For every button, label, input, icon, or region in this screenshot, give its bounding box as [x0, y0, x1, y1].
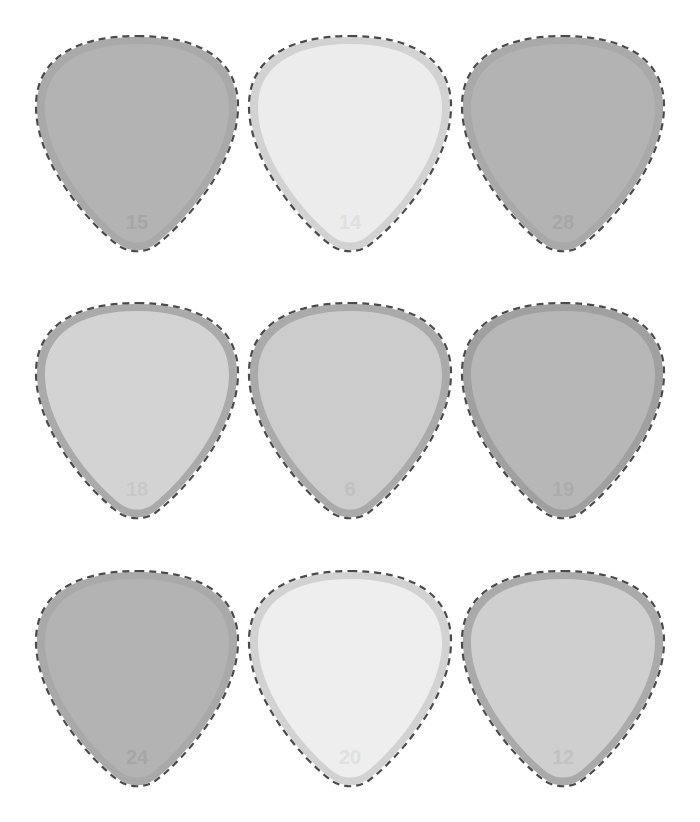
- pick-shape-icon: [34, 33, 240, 253]
- guitar-pick-tile-14[interactable]: 14: [247, 33, 453, 253]
- guitar-pick-tile-24[interactable]: 24: [34, 568, 240, 788]
- pick-shape-icon: [460, 300, 666, 520]
- pick-shape-icon: [460, 33, 666, 253]
- guitar-pick-tile-6[interactable]: 6: [247, 300, 453, 520]
- pick-shape-icon: [247, 300, 453, 520]
- guitar-pick-tile-12[interactable]: 12: [460, 568, 666, 788]
- guitar-pick-tile-18[interactable]: 18: [34, 300, 240, 520]
- pick-shape-icon: [34, 568, 240, 788]
- pick-shape-icon: [247, 33, 453, 253]
- pick-shape-icon: [460, 568, 666, 788]
- pick-shape-icon: [247, 568, 453, 788]
- pick-shape-icon: [34, 300, 240, 520]
- guitar-pick-tile-19[interactable]: 19: [460, 300, 666, 520]
- guitar-pick-tile-15[interactable]: 15: [34, 33, 240, 253]
- guitar-pick-tile-28[interactable]: 28: [460, 33, 666, 253]
- guitar-pick-tile-20[interactable]: 20: [247, 568, 453, 788]
